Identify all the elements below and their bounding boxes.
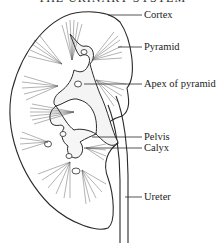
ureter-outer — [116, 96, 128, 243]
kidney-illustration — [0, 0, 224, 243]
label-cortex: Cortex — [144, 9, 173, 21]
label-calyx: Calyx — [144, 142, 169, 154]
label-pyramid: Pyramid — [144, 41, 180, 53]
label-ureter: Ureter — [144, 191, 171, 203]
label-apex-of-pyramid: Apex of pyramid — [144, 78, 216, 90]
